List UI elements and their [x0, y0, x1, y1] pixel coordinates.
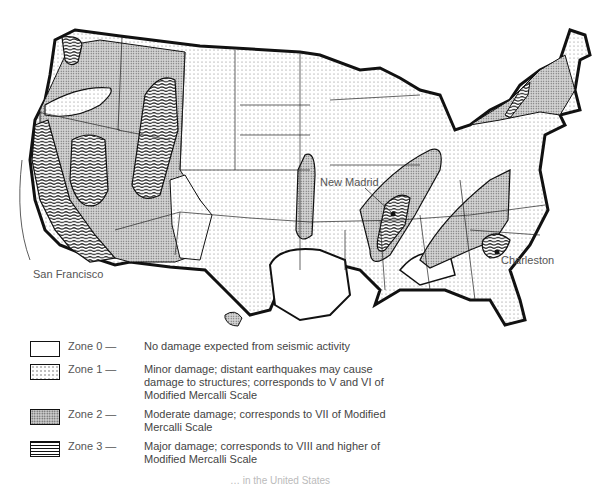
legend-zone-description: Major damage; corresponds to VIII and hi…	[144, 440, 410, 466]
legend-zone-name: Zone 3 —	[68, 440, 144, 452]
label-new-madrid: New Madrid	[320, 176, 379, 188]
zone2-sw-tip	[225, 312, 242, 326]
figure-caption: … in the United States	[230, 475, 330, 486]
legend-zone-3: Zone 3 — Major damage; corresponds to VI…	[30, 440, 410, 466]
zone1-swatch	[30, 364, 60, 380]
legend-zone-1: Zone 1 — Minor damage; distant earthquak…	[30, 363, 410, 402]
san-francisco-leader	[20, 160, 30, 260]
legend-zone-name: Zone 2 —	[68, 408, 144, 420]
legend-zone-description: Moderate damage; corresponds to VII of M…	[144, 408, 410, 434]
zone2-nebraska-oval	[296, 154, 315, 239]
legend-zone-name: Zone 0 —	[68, 340, 144, 352]
legend-zone-description: No damage expected from seismic activity	[144, 340, 350, 353]
legend-zone-description: Minor damage; distant earthquakes may ca…	[144, 363, 410, 402]
zone3-swatch	[30, 441, 60, 457]
legend-zone-name: Zone 1 —	[68, 363, 144, 375]
zone0-swatch	[30, 341, 60, 357]
legend-zone-2: Zone 2 — Moderate damage; corresponds to…	[30, 408, 410, 434]
label-san-francisco: San Francisco	[33, 268, 103, 280]
legend-zone-0: Zone 0 — No damage expected from seismic…	[30, 340, 410, 357]
zone0-texas-gulf	[270, 249, 350, 320]
charleston-marker	[495, 250, 500, 255]
legend: Zone 0 — No damage expected from seismic…	[30, 340, 410, 472]
zone2-swatch	[30, 409, 60, 425]
zone3-nevada-oval	[70, 135, 108, 206]
label-charleston: Charleston	[501, 254, 554, 266]
us-seismic-map	[0, 0, 608, 340]
